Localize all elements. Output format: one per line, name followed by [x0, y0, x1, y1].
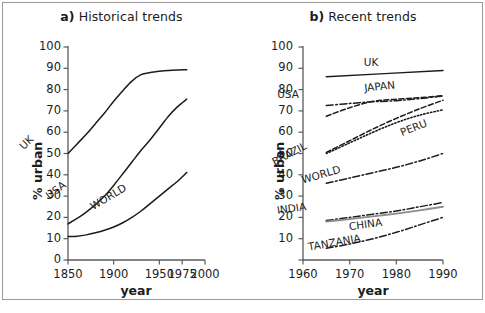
- panel-b-x-tick-label: 1990: [418, 267, 468, 281]
- panel-a-y-tick-label: 0: [54, 252, 61, 266]
- panel-b-y-tick-label: 80: [278, 82, 293, 96]
- panel-a-x-tick-label: 1900: [89, 267, 139, 281]
- panel-a-y-tick-label: 60: [46, 124, 61, 138]
- panel-a-series-world: [68, 173, 187, 237]
- panel-b-series-china: [326, 207, 443, 222]
- panel-recent-trends: b) Recent trends % urban year UKUSAJAPAN…: [243, 0, 483, 298]
- panel-b-series-label: JAPAN: [363, 78, 396, 93]
- panel-a-y-tick-label: 40: [46, 167, 61, 181]
- panel-a-series-label: UK: [17, 132, 37, 152]
- panel-b-x-tick-label: 1980: [371, 267, 421, 281]
- panel-b-series-uk: [326, 70, 443, 76]
- panel-b-series-label: TANZANIA: [306, 231, 362, 252]
- panel-historical-trends: a) Historical trends % urban year UKUSAW…: [0, 0, 243, 298]
- panel-a-series-label-group: WORLD: [88, 181, 128, 212]
- panel-a-y-tick-label: 20: [46, 209, 61, 223]
- panel-b-series-world: [326, 154, 443, 184]
- panel-b-series-label-group: TANZANIA: [306, 231, 362, 252]
- panel-a-y-tick-label: 50: [46, 146, 61, 160]
- panel-b-series-label-group: UK: [364, 56, 380, 68]
- panel-b-series-label-group: WORLD: [300, 163, 342, 186]
- figure-root: a) Historical trends % urban year UKUSAW…: [0, 0, 485, 313]
- panel-b-y-tick-label: 30: [278, 188, 293, 202]
- panel-a-y-tick-label: 80: [46, 82, 61, 96]
- panel-b-y-tick-label: 60: [278, 124, 293, 138]
- panel-b-y-tick-label: 100: [271, 39, 293, 53]
- panel-b-series-label: WORLD: [300, 163, 342, 186]
- panel-a-x-tick-label: 2000: [180, 267, 230, 281]
- panel-b-y-tick-label: 50: [278, 146, 293, 160]
- panel-b-series-label: UK: [364, 56, 380, 68]
- panel-a-y-tick-label: 90: [46, 60, 61, 74]
- panel-b-y-tick-label: 20: [278, 209, 293, 223]
- panel-b-y-tick-label: 90: [278, 60, 293, 74]
- panel-a-y-tick-label: 30: [46, 188, 61, 202]
- panel-a-series-usa: [68, 99, 187, 224]
- panel-b-series-label-group: JAPAN: [363, 78, 396, 93]
- panel-b-series-india: [326, 202, 443, 220]
- panel-a-series-uk: [68, 70, 187, 154]
- panel-b-y-tick-label: 40: [278, 167, 293, 181]
- panel-a-svg: UKUSAWORLD: [0, 0, 243, 298]
- panel-b-x-tick-label: 1970: [325, 267, 375, 281]
- panel-a-series-label-group: UK: [17, 132, 37, 152]
- panel-a-y-tick-label: 100: [39, 39, 61, 53]
- panel-a-x-tick-label: 1850: [43, 267, 93, 281]
- panel-b-y-tick-label: 10: [278, 231, 293, 245]
- panel-a-y-tick-label: 70: [46, 103, 61, 117]
- panel-a-y-tick-label: 10: [46, 231, 61, 245]
- panel-b-x-tick-label: 1960: [278, 267, 328, 281]
- panel-a-series-label: WORLD: [88, 181, 128, 212]
- panel-b-series-peru: [326, 110, 443, 154]
- panel-b-y-tick-label: 70: [278, 103, 293, 117]
